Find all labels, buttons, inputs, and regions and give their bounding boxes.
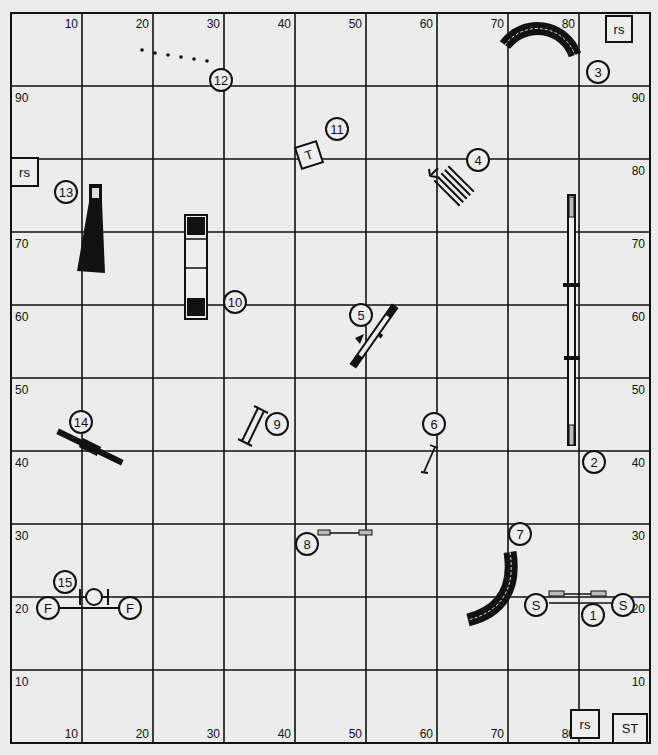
box-label: rs [614,22,625,37]
axis-label: 30 [632,529,646,543]
number-marker-5: 5 [350,304,372,326]
number-marker-6: 6 [423,413,445,435]
axis-label: 20 [136,727,150,741]
svg-text:14: 14 [74,415,88,430]
axis-label: 60 [15,310,29,324]
axis-label: 70 [15,237,29,251]
axis-label: 80 [632,164,646,178]
box-rs-left: rs [11,158,38,186]
svg-text:S: S [619,598,628,613]
svg-text:11: 11 [330,122,344,137]
svg-text:4: 4 [474,153,481,168]
number-marker-12: 12 [210,69,232,91]
axis-label: 30 [15,529,29,543]
axis-label: 40 [632,456,646,470]
box-st-start: ST [613,714,647,743]
axis-label: 10 [65,727,79,741]
axis-label: 40 [278,17,292,31]
marker-f: F [37,597,59,619]
svg-text:15: 15 [58,575,72,590]
axis-label: 70 [632,237,646,251]
box-label: rs [580,717,591,732]
box-label: rs [19,165,30,180]
axis-label: 70 [491,17,505,31]
axis-label: 60 [420,727,434,741]
marker-f: F [119,597,141,619]
svg-text:10: 10 [228,295,242,310]
number-marker-14: 14 [70,411,92,433]
svg-text:5: 5 [357,308,364,323]
axis-label: 30 [207,727,221,741]
agility-course-map: 1020304050607080102030405060708090807060… [0,0,658,755]
number-marker-1: 1 [582,604,604,626]
svg-text:2: 2 [590,455,597,470]
axis-label: 20 [136,17,150,31]
svg-text:9: 9 [273,417,280,432]
number-marker-4: 4 [467,149,489,171]
svg-text:F: F [126,601,134,616]
svg-text:S: S [532,598,541,613]
number-marker-9: 9 [266,413,288,435]
axis-label: 60 [632,310,646,324]
svg-text:7: 7 [516,527,523,542]
number-marker-8: 8 [296,533,318,555]
axis-label: 10 [65,17,79,31]
axis-label: 50 [349,17,363,31]
axis-label: 20 [15,602,29,616]
box-rs-top-right: rs [606,16,632,42]
axis-label: 90 [632,91,646,105]
axis-label: 60 [420,17,434,31]
number-marker-10: 10 [224,291,246,313]
a-frame-icon [185,215,207,319]
svg-text:12: 12 [214,73,228,88]
box-label: ST [622,721,639,736]
axis-label: 40 [15,456,29,470]
axis-label: 80 [562,17,576,31]
axis-label: 50 [15,383,29,397]
svg-text:1: 1 [589,608,596,623]
svg-text:6: 6 [430,417,437,432]
axis-label: 50 [349,727,363,741]
axis-label: 40 [278,727,292,741]
number-marker-13: 13 [55,181,77,203]
svg-text:13: 13 [59,185,73,200]
axis-label: 10 [15,675,29,689]
axis-label: 10 [632,675,646,689]
number-marker-11: 11 [326,118,348,140]
number-marker-2: 2 [583,451,605,473]
marker-s: S [612,594,634,616]
number-marker-3: 3 [587,61,609,83]
number-marker-15: 15 [54,571,76,593]
box-rs-bottom: rs [571,710,599,738]
axis-label: 70 [491,727,505,741]
svg-text:3: 3 [594,65,601,80]
axis-label: 90 [15,91,29,105]
number-marker-7: 7 [509,523,531,545]
axis-label: 30 [207,17,221,31]
axis-label: 50 [632,383,646,397]
marker-s: S [525,594,547,616]
svg-text:F: F [44,601,52,616]
svg-text:8: 8 [303,537,310,552]
